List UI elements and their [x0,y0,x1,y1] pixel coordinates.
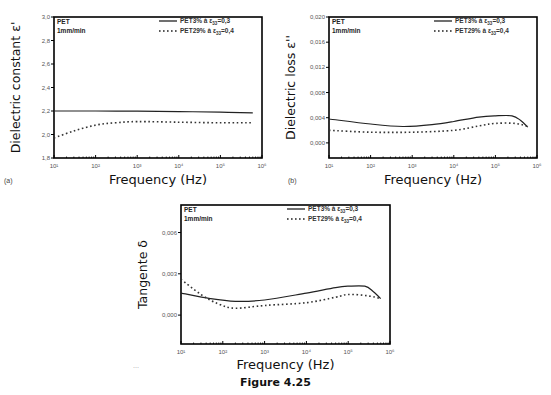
y-tick-label: 0,020 [310,14,326,20]
x-tick-label: 10⁶ [385,349,395,355]
x-tick-label: 10⁴ [174,163,184,169]
series-line [54,122,253,138]
x-axis-ticks: 10¹10²10³10⁴10⁵10⁶ [50,155,267,169]
plot-frame [181,205,390,344]
plot-annotation: PET [184,206,197,213]
y-tick-label: 0,016 [310,39,326,45]
x-tick-label: 10⁵ [344,349,354,355]
legend: PET3% à ε33=0,3PET29% à ε33=0,4 [434,17,509,36]
plot-annotation: PET [332,18,345,25]
y-tick-label: 1,8 [42,155,51,161]
y-tick-label: 2,0 [42,132,51,138]
y-tick-label: 2,4 [42,85,51,91]
y-tick-label: 2,6 [42,61,51,67]
x-tick-label: 10¹ [50,163,59,169]
plot-annotation: 1mm/min [184,215,213,222]
x-tick-label: 10⁴ [302,349,312,355]
x-tick-label: 10² [91,163,100,169]
y-tick-label: 0,000 [162,312,178,318]
series-line [181,286,381,302]
y-axis-label: Dielectric constant ε' [8,22,23,154]
panel-label: (b) [288,177,297,185]
x-tick-label: 10³ [133,163,142,169]
y-axis-ticks: 0,0000,0040,0080,0120,0160,020 [310,14,329,146]
y-tick-label: 0,012 [310,64,326,70]
x-tick-label: 10⁶ [257,163,267,169]
legend: PET3% à ε33=0,3PET29% à ε33=0,4 [159,17,234,36]
x-axis-label: Frequency (Hz) [236,357,334,372]
legend-label: PET3% à ε33=0,3 [180,17,231,26]
x-tick-label: 10⁵ [491,163,501,169]
y-tick-label: 0,004 [310,115,326,121]
figure-caption: Figure 4.25 [0,376,551,389]
y-axis-ticks: 1,82,02,22,42,62,83,0 [42,14,54,161]
legend-label: PET29% à ε33=0,4 [180,27,234,36]
stray-mark: ··· [133,364,139,370]
y-axis-label: Tangente δ [135,240,150,310]
x-tick-label: 10³ [408,163,417,169]
x-axis-ticks: 10¹10²10³10⁴10⁵10⁶ [325,155,542,169]
legend-label: PET3% à ε33=0,3 [455,17,506,26]
x-axis-label: Frequency (Hz) [109,172,207,187]
panel-label: (a) [4,177,13,185]
legend: PET3% à ε33=0,3PET29% à ε33=0,4 [287,205,362,224]
x-tick-label: 10¹ [325,163,334,169]
y-tick-label: 0,006 [162,230,178,236]
y-axis-label: Dielectric loss ε'' [283,35,298,140]
x-axis-ticks: 10¹10²10³10⁴10⁵10⁶ [177,341,395,355]
legend-label: PET3% à ε33=0,3 [308,205,359,214]
plot-annotation: 1mm/min [332,27,361,34]
chart-a: 10¹10²10³10⁴10⁵10⁶1,82,02,22,42,62,83,0F… [4,14,267,187]
y-tick-label: 0,003 [162,271,178,277]
y-tick-label: 0,000 [310,140,326,146]
chart-b: 10¹10²10³10⁴10⁵10⁶0,0000,0040,0080,0120,… [283,14,542,187]
legend-label: PET29% à ε33=0,4 [455,27,509,36]
y-tick-label: 2,8 [42,38,51,44]
series-line [329,115,528,127]
x-tick-label: 10⁴ [449,163,459,169]
plot-frame [329,17,537,158]
x-axis-label: Frequency (Hz) [384,172,482,187]
x-tick-label: 10¹ [177,349,186,355]
x-tick-label: 10⁶ [532,163,542,169]
chart-c: 10¹10²10³10⁴10⁵10⁶0,0000,0030,006Frequen… [135,205,395,372]
x-tick-label: 10² [218,349,227,355]
figure-canvas: 10¹10²10³10⁴10⁵10⁶1,82,02,22,42,62,83,0F… [0,0,551,395]
y-tick-label: 3,0 [42,14,51,20]
plot-annotation: PET [57,18,70,25]
y-tick-label: 2,2 [42,108,51,114]
x-tick-label: 10³ [260,349,269,355]
x-tick-label: 10² [366,163,375,169]
plot-frame [54,17,262,158]
legend-label: PET29% à ε33=0,4 [308,215,362,224]
plot-annotation: 1mm/min [57,27,86,34]
x-tick-label: 10⁵ [216,163,226,169]
series-line [54,111,253,113]
series-line [181,279,381,308]
y-tick-label: 0,008 [310,90,326,96]
y-axis-ticks: 0,0000,0030,006 [162,230,181,319]
